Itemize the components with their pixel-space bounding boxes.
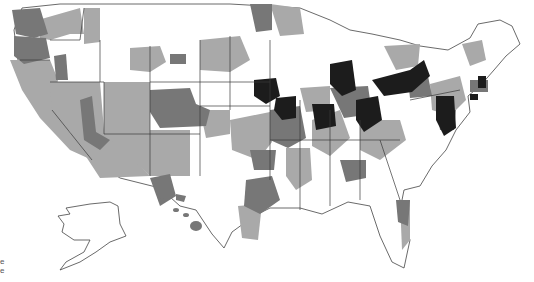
us-choropleth-map [0, 0, 534, 282]
legend-item: e [0, 266, 4, 275]
legend-item: e [0, 257, 4, 266]
alaska-outline [58, 202, 126, 270]
legend-fragment: e e [0, 257, 4, 275]
